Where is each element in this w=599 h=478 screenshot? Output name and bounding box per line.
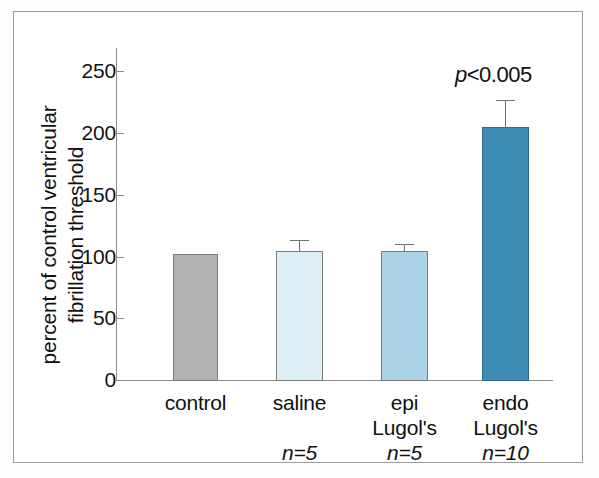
x-label-saline-n: n=5 bbox=[250, 440, 349, 465]
y-axis-title-line2: fibrillation threshold bbox=[62, 65, 89, 405]
p-value-symbol: p bbox=[455, 62, 467, 87]
error-bar-stem-epi-lugols bbox=[404, 244, 405, 252]
x-label-saline: saline n=5 bbox=[250, 390, 349, 465]
y-tick-50 bbox=[117, 318, 124, 319]
y-axis-line bbox=[116, 48, 117, 381]
bar-saline[interactable] bbox=[276, 251, 323, 381]
y-tick-150 bbox=[117, 195, 124, 196]
p-value-annotation: p<0.005 bbox=[455, 62, 532, 88]
figure-panel: 250 200 150 100 50 0 percent of control … bbox=[0, 0, 599, 478]
x-label-saline-line1: saline bbox=[250, 390, 349, 415]
x-label-endo-lugols: endo Lugol's n=10 bbox=[456, 390, 555, 465]
x-label-endo-lugols-line2: Lugol's bbox=[456, 415, 555, 440]
x-label-endo-lugols-line1: endo bbox=[456, 390, 555, 415]
x-label-endo-lugols-n: n=10 bbox=[456, 440, 555, 465]
y-tick-100 bbox=[117, 257, 124, 258]
y-axis-title-line1: percent of control ventricular bbox=[35, 65, 62, 405]
bar-epi-lugols[interactable] bbox=[381, 251, 428, 381]
x-label-epi-lugols: epi Lugol's n=5 bbox=[355, 390, 454, 465]
error-bar-stem-endo-lugols bbox=[505, 100, 506, 128]
bar-control[interactable] bbox=[173, 254, 218, 381]
y-axis-title: percent of control ventricular fibrillat… bbox=[35, 65, 89, 405]
error-bar-cap-saline bbox=[290, 240, 309, 241]
error-bar-stem-saline bbox=[299, 240, 300, 252]
bar-chart-plot-area: 250 200 150 100 50 0 percent of control … bbox=[0, 0, 599, 478]
y-tick-200 bbox=[117, 133, 124, 134]
x-label-epi-lugols-line1: epi bbox=[355, 390, 454, 415]
x-label-control: control bbox=[146, 390, 245, 415]
y-tick-250 bbox=[117, 71, 124, 72]
error-bar-cap-epi-lugols bbox=[395, 244, 414, 245]
p-value-rest: <0.005 bbox=[467, 62, 532, 87]
error-bar-cap-endo-lugols bbox=[496, 100, 515, 101]
bar-endo-lugols[interactable] bbox=[482, 127, 529, 381]
x-label-epi-lugols-n: n=5 bbox=[355, 440, 454, 465]
x-label-control-line1: control bbox=[146, 390, 245, 415]
x-label-epi-lugols-line2: Lugol's bbox=[355, 415, 454, 440]
